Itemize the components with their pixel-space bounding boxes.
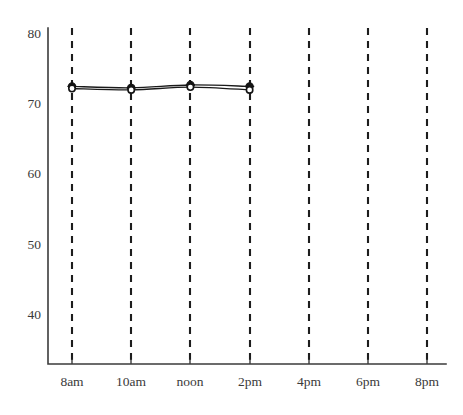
x-tick-label-10am: 10am (116, 374, 146, 389)
y-tick-label-60: 60 (28, 166, 42, 181)
chart-page: 80 70 60 50 40 8am 10am noon 2pm 4pm 6pm… (0, 0, 463, 415)
y-tick-label-80: 80 (28, 26, 42, 41)
data-point-marker[interactable] (69, 85, 75, 91)
y-tick-label-40: 40 (28, 307, 42, 322)
data-point-marker[interactable] (128, 87, 134, 93)
line-chart: 80 70 60 50 40 8am 10am noon 2pm 4pm 6pm… (0, 0, 463, 415)
x-tick-label-2pm: 2pm (238, 374, 263, 389)
x-tick-label-4pm: 4pm (297, 374, 322, 389)
chart-background (0, 0, 463, 415)
data-point-marker[interactable] (187, 84, 193, 90)
data-point-marker[interactable] (246, 87, 252, 93)
x-tick-label-8am: 8am (60, 374, 84, 389)
y-tick-label-70: 70 (28, 96, 42, 111)
x-tick-label-6pm: 6pm (356, 374, 381, 389)
x-tick-label-8pm: 8pm (415, 374, 440, 389)
y-tick-label-50: 50 (28, 237, 42, 252)
x-tick-label-noon: noon (177, 374, 204, 389)
